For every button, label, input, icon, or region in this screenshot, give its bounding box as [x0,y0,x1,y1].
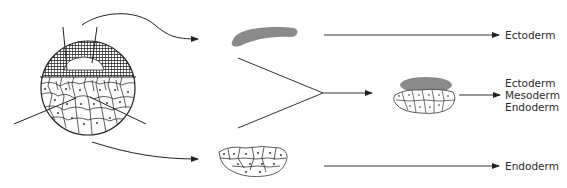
combined-explant [394,77,455,113]
outcome-text-ectoderm: Ectoderm [505,77,560,89]
marginal-arc [128,50,150,124]
blastula [14,27,150,135]
label-ectoderm: Ectoderm [505,29,555,41]
converge-line-bottom [238,93,323,128]
outcome-text-mesoderm: Mesoderm [505,89,560,101]
outcome-text: Endoderm [505,160,559,172]
arrow-to-vegetal-explant [92,142,198,159]
label-three-germ-layers: Ectoderm Mesoderm Endoderm [505,77,560,113]
cut-line-left-bottom [14,98,76,124]
label-endoderm: Endoderm [505,160,559,172]
vegetal-explant [219,147,287,177]
cut-line-right-bottom [90,97,146,124]
animal-cap-explant [232,27,298,47]
converge-line-top [238,58,323,93]
outcome-text-endoderm: Endoderm [505,101,560,113]
germ-layer-diagram: Ectoderm Ectoderm Mesoderm Endoderm Endo… [0,0,567,188]
outcome-text: Ectoderm [505,29,555,41]
diagram-graphic [0,0,567,188]
arrow-to-animal-cap [82,14,198,39]
vegetal-cells [40,77,138,134]
